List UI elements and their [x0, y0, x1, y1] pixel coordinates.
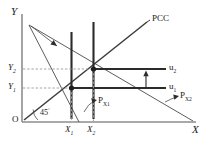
- equilibrium-point-e1: [69, 85, 74, 90]
- angle-value: 45: [40, 108, 48, 117]
- indifference-curve-u1-label: u1: [169, 82, 176, 93]
- pcc-label: PCC: [152, 14, 169, 23]
- px1-subscript: X1: [103, 101, 110, 107]
- u1-subscript: 1: [174, 87, 177, 93]
- x2-subscript: 2: [93, 130, 96, 136]
- pcc-diagram-svg: [0, 0, 208, 141]
- y-tick-label-y1: Y1: [8, 82, 16, 93]
- px2-leader-arrow: [165, 95, 179, 103]
- y1-subscript: 1: [13, 87, 16, 93]
- x-tick-label-x1: X1: [65, 125, 73, 136]
- u2-subscript: 2: [174, 68, 177, 74]
- y-axis-label: Y: [11, 6, 17, 17]
- diagram-root: Y X O Y2 Y1 X1 X2 PCC u2 u1 PX1 PX2 45°: [0, 0, 208, 141]
- budget-line-px1-label: PX1: [98, 96, 110, 107]
- x-tick-label-x2: X2: [87, 125, 95, 136]
- pcc-ray: [24, 22, 147, 120]
- utility-increase-arrow: [143, 71, 148, 88]
- budget-line-px2-label: PX2: [180, 91, 192, 102]
- px2-subscript: X2: [185, 96, 192, 102]
- angle-degree-symbol: °: [48, 107, 50, 112]
- pcc-leader-line: [147, 20, 150, 22]
- equilibrium-point-e2: [91, 66, 96, 71]
- x1-subscript: 1: [71, 130, 74, 136]
- indifference-curve-u2-label: u2: [169, 63, 176, 74]
- px1-leader-arrow: [84, 98, 97, 112]
- origin-label: O: [12, 115, 19, 124]
- x-axis-label: X: [192, 124, 199, 135]
- y-tick-label-y2: Y2: [8, 63, 16, 74]
- y2-subscript: 2: [13, 68, 16, 74]
- angle-label-45: 45°: [40, 108, 50, 117]
